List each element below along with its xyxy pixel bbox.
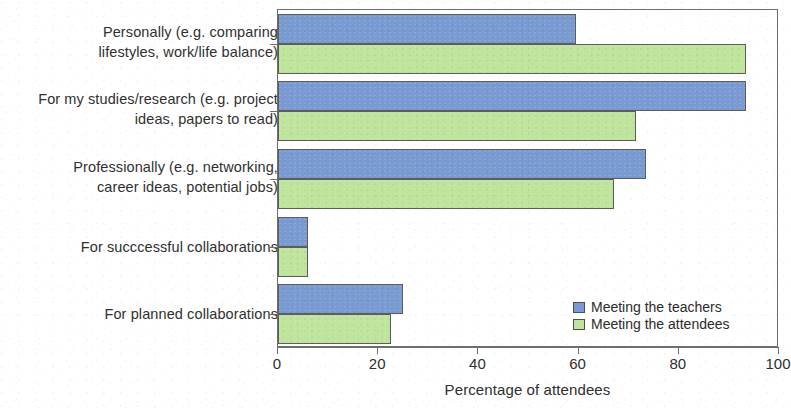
- bar-attendees: [278, 314, 391, 344]
- legend: Meeting the teachers Meeting the attende…: [571, 297, 734, 334]
- x-tick: [578, 347, 579, 354]
- x-tick-label: 80: [669, 355, 686, 372]
- bar-attendees: [278, 111, 636, 141]
- legend-swatch-icon-attendees: [573, 319, 585, 330]
- category-label-successful-collaborations: For succcessful collaborations: [0, 237, 278, 257]
- category-label-personally: Personally (e.g. comparing lifestyles, w…: [0, 22, 278, 62]
- bar-attendees: [278, 44, 746, 74]
- x-tick-label: 100: [765, 355, 790, 372]
- x-tick-label: 60: [569, 355, 586, 372]
- category-label-studies: For my studies/research (e.g. project id…: [0, 89, 278, 129]
- x-axis-title: Percentage of attendees: [277, 381, 778, 398]
- x-axis-line: [277, 347, 778, 348]
- bar-teachers: [278, 81, 746, 111]
- x-tick-label: 0: [273, 355, 281, 372]
- x-tick: [477, 347, 478, 354]
- bar-teachers: [278, 217, 308, 247]
- bar-group: [278, 149, 777, 209]
- category-label-professionally: Professionally (e.g. networking, career …: [0, 157, 278, 197]
- legend-item-teachers: Meeting the teachers: [573, 299, 730, 315]
- bar-teachers: [278, 284, 403, 314]
- legend-item-attendees: Meeting the attendees: [573, 316, 730, 332]
- x-tick-label: 40: [469, 355, 486, 372]
- legend-label-teachers: Meeting the teachers: [591, 299, 722, 315]
- bar-attendees: [278, 247, 308, 277]
- bar-group: [278, 217, 777, 277]
- bar-group: [278, 14, 777, 74]
- x-tick: [277, 347, 278, 354]
- legend-label-attendees: Meeting the attendees: [591, 316, 730, 332]
- category-label-planned-collaborations: For planned collaborations: [0, 304, 278, 324]
- x-tick-label: 20: [369, 355, 386, 372]
- legend-swatch-icon-teachers: [573, 302, 585, 313]
- bar-teachers: [278, 14, 576, 44]
- x-tick: [678, 347, 679, 354]
- bar-teachers: [278, 149, 646, 179]
- x-tick: [778, 347, 779, 354]
- x-tick: [377, 347, 378, 354]
- bar-attendees: [278, 179, 614, 209]
- bar-group: [278, 81, 777, 141]
